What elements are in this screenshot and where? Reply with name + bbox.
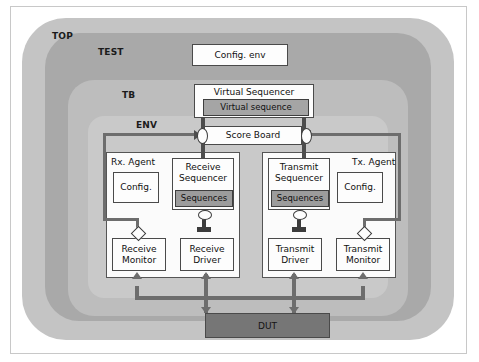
transmit-sequencer-label: Transmit Sequencer <box>269 162 329 184</box>
link-scoreboard-left-horizontal <box>103 133 203 136</box>
virtual-sequencer-label: Virtual Sequencer <box>195 87 313 98</box>
node-rx-sequences[interactable]: Sequences <box>175 190 233 207</box>
node-rx-config[interactable]: Config. <box>113 172 159 203</box>
arrowhead-rx-driver-up <box>201 272 211 279</box>
link-scoreboard-right-vertical <box>398 133 401 221</box>
node-receive-driver[interactable]: Receive Driver <box>180 238 234 271</box>
link-scoreboard-right-to-monitor <box>363 218 401 221</box>
plug-tx-driver <box>292 227 306 232</box>
port-tx-seq-socket <box>293 210 307 220</box>
receive-sequencer-label: Receive Sequencer <box>173 162 233 184</box>
port-scoreboard-right <box>301 128 312 144</box>
arrowhead-tx-driver-up <box>289 272 299 279</box>
link-scoreboard-left-vertical <box>103 133 106 221</box>
diagram-canvas: TOP TEST TB ENV Rx. Agent Tx. Agent Conf… <box>0 0 479 362</box>
node-transmit-sequencer[interactable]: Transmit Sequencer Sequences <box>268 158 330 210</box>
agent-tx-label: Tx. Agent <box>352 157 395 167</box>
node-score-board[interactable]: Score Board <box>204 126 302 145</box>
container-label-top: TOP <box>52 31 73 41</box>
node-tx-sequences[interactable]: Sequences <box>271 190 329 207</box>
bus-tx-monitor-stub <box>361 286 365 300</box>
link-scoreboard-left-to-monitor <box>103 218 139 221</box>
node-transmit-monitor[interactable]: Transmit Monitor <box>336 238 390 271</box>
port-scoreboard-left <box>197 128 208 144</box>
bus-horizontal <box>135 296 365 300</box>
container-label-test: TEST <box>98 47 124 57</box>
link-scoreboard-right-horizontal <box>300 133 401 136</box>
plug-rx-driver <box>197 227 211 232</box>
arrowhead-tx-monitor-up <box>358 272 368 279</box>
node-receive-sequencer[interactable]: Receive Sequencer Sequences <box>172 158 234 210</box>
node-receive-monitor[interactable]: Receive Monitor <box>112 238 166 271</box>
node-dut[interactable]: DUT <box>205 313 330 338</box>
container-label-tb: TB <box>122 90 135 100</box>
port-rx-seq-socket <box>198 210 212 220</box>
arrowhead-rx-monitor-up <box>132 272 142 279</box>
node-tx-config[interactable]: Config. <box>337 172 383 203</box>
node-transmit-driver[interactable]: Transmit Driver <box>268 238 322 271</box>
agent-rx-label: Rx. Agent <box>111 157 155 167</box>
node-config-env[interactable]: Config. env <box>192 44 288 66</box>
node-virtual-sequence[interactable]: Virtual sequence <box>203 99 309 116</box>
container-label-env: ENV <box>136 120 157 130</box>
node-virtual-sequencer[interactable]: Virtual Sequencer Virtual sequence <box>194 84 314 118</box>
